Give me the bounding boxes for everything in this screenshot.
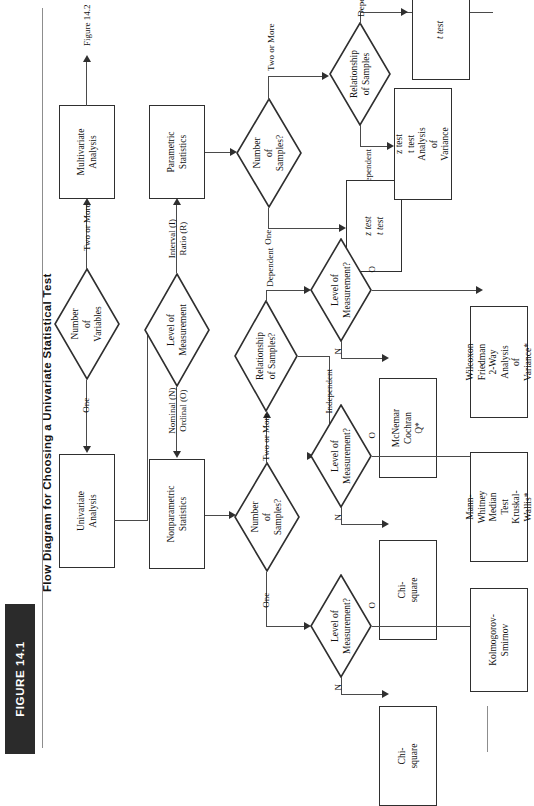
box-nonparametric-statistics-label: Nonparametric Statistics: [166, 486, 189, 543]
edge-label-npdep-N: N: [333, 341, 344, 361]
outcome-np-dependent-ordinal-label: Wilcoxon Friedman 2-Way Analysis of Vari…: [465, 343, 534, 381]
box-univariate-analysis: Univariate Analysis: [59, 454, 115, 568]
edge-nonparam-to-samples: [205, 515, 230, 516]
header-rule: [42, 8, 43, 748]
decision-relationship-of-samples-nonparametric-label: Relationship of Samples?: [255, 332, 278, 380]
outcome-np-independent-nominal-label: Chi-square: [397, 576, 420, 604]
edge-label-npone-O: O: [367, 595, 378, 615]
figure-number-badge: FIGURE 14.1: [5, 604, 35, 754]
outcome-param-one-sample-label: z test t test: [363, 216, 386, 235]
arrow-param-relationship: [322, 72, 329, 80]
outcome-np-dependent-nominal: McNemar Cochran Q*: [379, 378, 437, 478]
edge-npindep-N-h: [341, 524, 383, 525]
edge-npindep-O-h: [372, 456, 477, 457]
decision-number-of-samples-nonparametric: Number of Samples?: [234, 462, 300, 572]
outcome-np-one-nominal-label: Chi-square: [397, 742, 420, 770]
arrow-npone-N-outcome: [382, 690, 389, 698]
arrow-param-dependent-outcome: [401, 8, 408, 16]
decision-relationship-of-samples-parametric: Relationship of Samples: [329, 22, 391, 126]
decision-number-of-variables-label: Number of Variables: [70, 306, 105, 341]
arrow-nonparametric: [173, 451, 181, 458]
edge-label-np-one: One: [261, 578, 272, 622]
box-univariate-analysis-label: Univariate Analysis: [76, 491, 99, 531]
decision-relationship-of-samples-nonparametric: Relationship of Samples?: [234, 300, 298, 412]
figure-number-label: FIGURE 14.1: [5, 604, 35, 754]
decision-lom-np-dependent: Level of Measurement?: [310, 238, 372, 342]
edge-label-np-dependent: Dependent: [265, 231, 276, 303]
edge-label-param-dependent: Dependent: [356, 0, 367, 32]
edge-label-param-two-or-more: Two or More: [266, 12, 277, 82]
box-nonparametric-statistics: Nonparametric Statistics: [149, 459, 205, 569]
edge-label-npone-N: N: [333, 677, 344, 697]
edge-label-nominal-ordinal: Nominal (N) Ordinal (O): [167, 379, 188, 443]
decision-lom-np-independent: Level of Measurement?: [310, 404, 372, 508]
outcome-np-dependent-nominal-label: McNemar Cochran Q*: [391, 409, 426, 448]
decision-lom-np-one-sample: Level of Measurement?: [310, 574, 372, 678]
outcome-np-one-ordinal: Kolmogorov- Smirnov: [470, 588, 528, 692]
arrow-npdep-O-outcome: [476, 286, 483, 294]
arrow-parametric: [173, 198, 181, 205]
outcome-np-one-ordinal-label: Kolmogorov- Smirnov: [488, 614, 511, 666]
edge-label-np-two-or-more: Two or More: [261, 402, 272, 472]
decision-level-of-measurement-label: Level of Measurement: [166, 304, 189, 356]
edge-label-one-variable: One: [81, 383, 92, 427]
outcome-param-dependent: t test: [412, 0, 470, 80]
edge-npdep-O-h: [372, 290, 477, 291]
box-multivariate-analysis-label: Multivariate Analysis: [76, 129, 99, 176]
outcome-param-independent: z test t test Analysis of Variance: [394, 88, 452, 200]
label-figure-ref: Figure 14.2: [82, 0, 93, 59]
outcome-param-independent-label: z test t test Analysis of Variance: [394, 127, 452, 160]
outcome-np-independent-ordinal: Mann-Whitney Median Test Kruskal-Wallis*: [470, 452, 528, 562]
edge-param-twomore-h: [268, 76, 323, 77]
decision-number-of-variables: Number of Variables: [54, 268, 120, 380]
outcome-np-independent-nominal: Chi-square: [379, 540, 437, 640]
edge-param-one-h: [268, 228, 340, 229]
edge-multivariate-to-figref: [86, 62, 87, 106]
edge-label-two-or-more-variables: Two or More: [82, 192, 93, 262]
edge-param-indep-v: [360, 125, 361, 147]
outcome-np-independent-ordinal-label: Mann-Whitney Median Test Kruskal-Wallis*: [465, 490, 534, 523]
decision-level-of-measurement: Level of Measurement: [144, 273, 210, 387]
edge-npdep-N-h: [341, 358, 383, 359]
edge-label-interval-ratio: Interval (I) Ratio (R): [167, 207, 188, 271]
figure-header: FIGURE 14.1 Flow Diagram for Choosing a …: [0, 0, 46, 762]
box-parametric-statistics: Parametric Statistics: [149, 105, 205, 199]
decision-number-of-samples-nonparametric-label: Number of Samples?: [250, 499, 285, 535]
arrow-univariate: [83, 446, 91, 453]
arrow-param-independent-outcome: [387, 142, 394, 150]
decision-relationship-of-samples-parametric-label: Relationship of Samples: [349, 50, 372, 98]
edge-npone-N-h: [341, 694, 383, 695]
box-multivariate-analysis: Multivariate Analysis: [59, 105, 115, 199]
outcome-param-dependent-label: t test: [435, 21, 447, 39]
arrow-npdep-N-outcome: [382, 354, 389, 362]
outcome-np-one-nominal: Chi-square: [379, 706, 437, 806]
box-parametric-statistics-label: Parametric Statistics: [166, 131, 189, 172]
edge-label-npindep-O: O: [367, 425, 378, 445]
edge-label-npdep-O: O: [367, 259, 378, 279]
decision-lom-np-dependent-label: Level of Measurement?: [330, 262, 353, 318]
flowchart-canvas: Number of Variables One Two or More Univ…: [46, 0, 528, 762]
decision-lom-np-one-sample-label: Level of Measurement?: [330, 598, 353, 654]
arrow-param-one-outcome: [339, 224, 346, 232]
decision-number-of-samples-parametric: Number of Samples?: [236, 98, 302, 208]
edge-param-to-samples: [205, 152, 231, 153]
outcome-np-dependent-ordinal: Wilcoxon Friedman 2-Way Analysis of Vari…: [470, 306, 528, 418]
edge-univariate-out-h1: [114, 520, 148, 521]
decision-lom-np-independent-label: Level of Measurement?: [330, 428, 353, 484]
decision-number-of-samples-parametric-label: Number of Samples?: [252, 135, 287, 171]
edge-label-npindep-N: N: [333, 507, 344, 527]
arrow-npindep-N-outcome: [382, 520, 389, 528]
edge-npone-O-h: [372, 626, 477, 627]
edge-np-one-h: [266, 626, 305, 627]
